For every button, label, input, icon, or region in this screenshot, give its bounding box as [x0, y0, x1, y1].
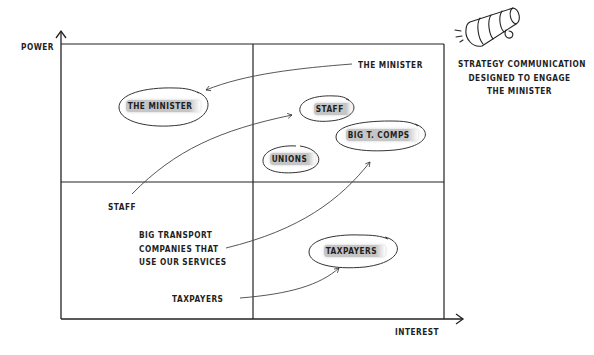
- x-axis: [61, 314, 463, 324]
- arrow-minister: [206, 64, 352, 90]
- annotation-taxpayers: TAXPAYERS: [172, 293, 223, 305]
- callout-line: STRATEGY COMMUNICATION: [458, 58, 581, 72]
- stakeholder-big-t-comps: BIG T. COMPS: [346, 130, 418, 140]
- stakeholder-staff: STAFF: [314, 104, 352, 114]
- y-axis: [56, 31, 66, 319]
- arrow-taxpayers: [240, 268, 339, 298]
- annotation-line: COMPANIES THAT: [139, 243, 227, 257]
- stakeholder-minister: THE MINISTER: [126, 101, 201, 111]
- stakeholder-label: BIG T. COMPS: [346, 129, 418, 141]
- stakeholder-label: TAXPAYERS: [324, 245, 385, 257]
- annotation-line: USE OUR SERVICES: [139, 256, 227, 270]
- annotation-big-transport: BIG TRANSPORT COMPANIES THAT USE OUR SER…: [139, 229, 227, 270]
- callout-line: DESIGNED TO ENGAGE: [458, 72, 581, 86]
- stakeholder-matrix-drawing: [0, 0, 594, 355]
- y-axis-label: POWER: [21, 41, 54, 53]
- stakeholder-taxpayers: TAXPAYERS: [324, 246, 385, 256]
- strategy-callout: STRATEGY COMMUNICATION DESIGNED TO ENGAG…: [458, 58, 581, 99]
- megaphone-icon: [455, 8, 519, 46]
- annotation-minister: THE MINISTER: [358, 59, 423, 71]
- x-axis-label: INTEREST: [395, 326, 439, 338]
- annotation-line: BIG TRANSPORT: [139, 229, 227, 243]
- stakeholder-label: THE MINISTER: [126, 100, 201, 112]
- stakeholder-label: UNIONS: [270, 153, 315, 165]
- annotation-staff: STAFF: [108, 201, 136, 213]
- stakeholder-label: STAFF: [314, 103, 352, 115]
- quadrant-grid: [61, 44, 444, 319]
- stakeholder-unions: UNIONS: [270, 154, 315, 164]
- callout-line: THE MINISTER: [458, 85, 581, 99]
